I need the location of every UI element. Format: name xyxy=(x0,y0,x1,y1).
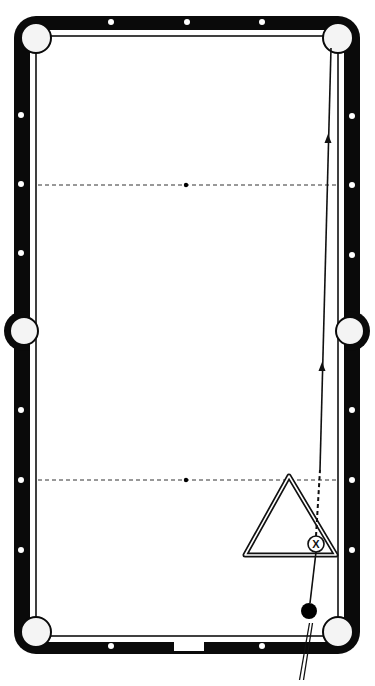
foot-string-spot xyxy=(184,478,188,482)
bottom-right-pocket xyxy=(323,617,353,647)
diamond-marker-left-2 xyxy=(18,181,24,187)
rail-nameplate xyxy=(174,641,204,651)
diamond-marker-right-3 xyxy=(349,252,355,258)
diamond-marker-right-2 xyxy=(349,182,355,188)
diamond-marker-right-6 xyxy=(349,547,355,553)
diamond-marker-bottom-2 xyxy=(259,643,265,649)
diamond-marker-bottom-1 xyxy=(108,643,114,649)
diamond-marker-top-1 xyxy=(108,19,114,25)
bottom-left-pocket xyxy=(21,617,51,647)
diamond-marker-right-4 xyxy=(349,407,355,413)
diamond-marker-left-1 xyxy=(18,112,24,118)
side-left-pocket xyxy=(10,317,38,345)
playing-surface xyxy=(36,36,338,636)
pool-table-canvas: X xyxy=(0,0,375,686)
top-left-pocket xyxy=(21,23,51,53)
diamond-marker-left-6 xyxy=(18,547,24,553)
head-string-spot xyxy=(184,183,188,187)
diamond-marker-left-4 xyxy=(18,407,24,413)
cue-ball xyxy=(301,603,317,619)
diamond-marker-top-3 xyxy=(259,19,265,25)
top-right-pocket xyxy=(323,23,353,53)
pool-table-diagram: X xyxy=(0,0,375,686)
object-ball-label: X xyxy=(312,538,320,550)
diamond-marker-right-5 xyxy=(349,477,355,483)
diamond-marker-left-5 xyxy=(18,477,24,483)
diamond-marker-right-1 xyxy=(349,113,355,119)
side-right-pocket xyxy=(336,317,364,345)
diamond-marker-left-3 xyxy=(18,250,24,256)
diamond-marker-top-2 xyxy=(184,19,190,25)
